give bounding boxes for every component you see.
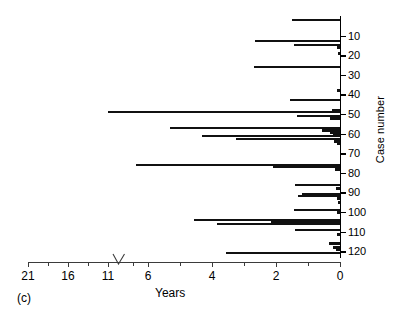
x-tick-4 xyxy=(212,262,213,267)
y-tick-label-10: 10 xyxy=(348,30,360,41)
axis-break-icon xyxy=(112,253,126,265)
x-axis-line xyxy=(28,262,340,263)
y-tick-label-20: 20 xyxy=(348,50,360,61)
x-tick-label-0: 0 xyxy=(337,270,344,282)
y-tick-90 xyxy=(341,192,346,193)
x-tick-6 xyxy=(148,262,149,267)
x-tick-label-4: 4 xyxy=(209,270,216,282)
bar-case-63 xyxy=(236,138,340,140)
bar-case-106 xyxy=(217,223,340,225)
y-tick-label-50: 50 xyxy=(348,109,360,120)
y-tick-label-110: 110 xyxy=(348,226,365,237)
y-tick-30 xyxy=(341,75,346,76)
y-tick-label-30: 30 xyxy=(348,69,360,80)
y-tick-10 xyxy=(341,36,346,37)
bar-case-2 xyxy=(292,19,340,21)
y-tick-120 xyxy=(341,251,346,252)
x-tick-label-6: 6 xyxy=(145,270,152,282)
bar-case-116 xyxy=(329,242,340,245)
bar-case-86 xyxy=(295,184,340,186)
y-tick-label-40: 40 xyxy=(348,89,360,100)
bar-case-61 xyxy=(202,135,340,137)
y-tick-label-80: 80 xyxy=(348,167,360,178)
bar-case-52 xyxy=(330,117,340,120)
x-tick-minor xyxy=(48,262,49,266)
y-tick-label-120: 120 xyxy=(348,246,366,257)
x-tick-minor xyxy=(180,262,181,266)
bar-case-121 xyxy=(226,252,340,254)
bar-case-26 xyxy=(254,66,340,68)
plot-area xyxy=(28,16,340,254)
y-axis-title: Case number xyxy=(374,96,386,163)
bar-case-92 xyxy=(298,195,340,197)
x-tick-minor xyxy=(88,262,89,266)
bar-case-49 xyxy=(108,111,340,113)
y-tick-50 xyxy=(341,114,346,115)
y-tick-70 xyxy=(341,153,346,154)
x-tick-label-21: 21 xyxy=(21,270,34,282)
x-axis-title: Years xyxy=(155,286,185,300)
x-tick-16 xyxy=(68,262,69,267)
y-tick-40 xyxy=(341,94,346,95)
y-tick-110 xyxy=(341,232,346,233)
panel-label: (c) xyxy=(17,291,31,305)
x-tick-label-2: 2 xyxy=(273,270,280,282)
bar-case-109 xyxy=(295,229,340,231)
bar-case-99 xyxy=(294,209,340,211)
y-tick-100 xyxy=(341,212,346,213)
x-tick-label-16: 16 xyxy=(61,270,74,282)
y-tick-label-60: 60 xyxy=(348,128,360,139)
bar-case-13 xyxy=(255,40,340,42)
y-tick-label-90: 90 xyxy=(348,187,360,198)
chart-figure: 102030405060708090100110120 Case number … xyxy=(0,0,404,313)
y-tick-label-70: 70 xyxy=(348,148,360,159)
x-tick-minor xyxy=(244,262,245,266)
y-tick-20 xyxy=(341,55,346,56)
x-tick-0 xyxy=(340,262,341,267)
bar-case-15 xyxy=(294,44,340,46)
y-tick-label-100: 100 xyxy=(348,207,366,218)
bar-case-43 xyxy=(290,99,340,101)
x-tick-21 xyxy=(28,262,29,267)
x-tick-minor xyxy=(308,262,309,266)
y-tick-80 xyxy=(341,173,346,174)
x-tick-11 xyxy=(108,262,109,267)
x-tick-2 xyxy=(276,262,277,267)
x-tick-minor xyxy=(133,262,134,266)
bar-case-57 xyxy=(170,127,340,129)
y-axis-line xyxy=(340,16,341,258)
x-tick-label-11: 11 xyxy=(102,270,114,282)
bar-case-77 xyxy=(273,166,340,168)
y-tick-60 xyxy=(341,134,346,135)
